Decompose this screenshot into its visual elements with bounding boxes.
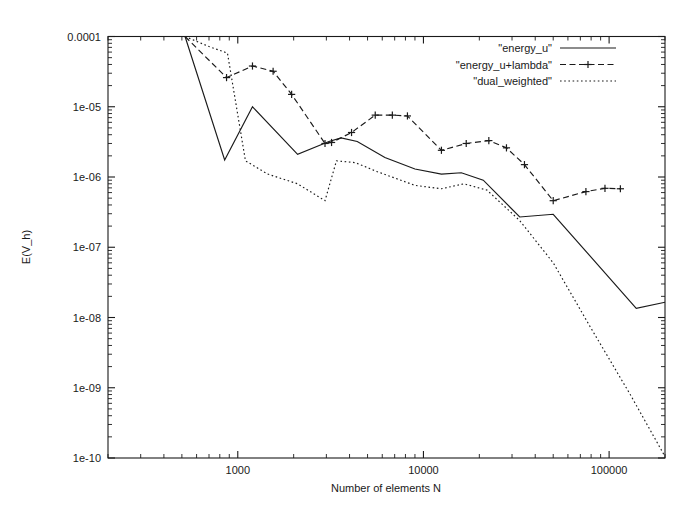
y-tick-label: 1e-09 xyxy=(73,382,101,394)
y-tick-label: 0.0001 xyxy=(67,31,101,43)
legend-label-0: "energy_u" xyxy=(498,42,552,54)
y-axis-title: E(V_h) xyxy=(20,230,32,264)
legend-label-1: "energy_u+lambda" xyxy=(456,59,552,71)
x-tick-label: 1000 xyxy=(226,464,250,476)
convergence-plot-figure: 0.00011e-051e-061e-071e-081e-091e-10 100… xyxy=(0,0,696,515)
x-tick-label: 100000 xyxy=(591,464,628,476)
plot-canvas: 0.00011e-051e-061e-071e-081e-091e-10 100… xyxy=(0,0,696,515)
legend-label-2: "dual_weighted" xyxy=(473,75,552,87)
y-tick-label: 1e-10 xyxy=(73,452,101,464)
y-tick-label: 1e-07 xyxy=(73,241,101,253)
y-tick-label: 1e-05 xyxy=(73,101,101,113)
x-tick-label: 10000 xyxy=(408,464,439,476)
x-axis-title: Number of elements N xyxy=(331,482,441,494)
y-tick-label: 1e-06 xyxy=(73,171,101,183)
y-tick-label: 1e-08 xyxy=(73,312,101,324)
